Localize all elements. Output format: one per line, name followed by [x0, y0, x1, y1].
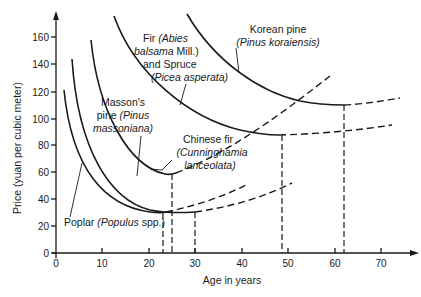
x-tick-label: 0	[53, 258, 59, 269]
svg-text:Fir (Abies: Fir (Abies	[143, 32, 189, 44]
svg-text:(Picea asperata): (Picea asperata)	[151, 71, 228, 83]
svg-text:(Pinus koraiensis): (Pinus koraiensis)	[236, 36, 319, 48]
y-axis-arrow-icon	[53, 11, 59, 20]
svg-text:Poplar (Populus spp.): Poplar (Populus spp.)	[64, 216, 165, 228]
optimal-age-markers	[163, 105, 344, 253]
x-tick-label: 20	[143, 258, 155, 269]
x-tick-label: 50	[282, 258, 294, 269]
x-axis-arrow-icon	[410, 250, 419, 256]
svg-text:massoniana): massoniana)	[93, 122, 153, 134]
label-korean-pine: Korean pine (Pinus koraiensis)	[236, 23, 320, 73]
svg-text:Chinese fir: Chinese fir	[183, 133, 234, 145]
y-tick-label: 80	[38, 140, 50, 151]
x-tick-label: 60	[329, 258, 341, 269]
y-tick-label: 40	[38, 194, 50, 205]
y-tick-label: 20	[38, 221, 50, 232]
y-tick-label: 0	[43, 248, 49, 259]
y-tick-label: 60	[38, 167, 50, 178]
svg-text:balsama Mill.): balsama Mill.)	[134, 45, 199, 57]
label-fir-spruce: Fir (Abies balsama Mill.) and Spruce (Pi…	[134, 32, 228, 105]
svg-text:pine (Pinus: pine (Pinus	[97, 109, 150, 121]
price-age-chart: 0 20 40 60 80 100 120 140 160 0 10 20 30…	[0, 0, 421, 297]
x-tick-label: 10	[96, 258, 108, 269]
svg-text:Korean pine: Korean pine	[250, 23, 307, 35]
svg-text:(Cunninghamia: (Cunninghamia	[176, 146, 247, 158]
y-tick-label: 160	[32, 32, 49, 43]
x-tick-label: 30	[189, 258, 201, 269]
x-axis-title: Age in years	[203, 274, 261, 286]
svg-text:lanceolata): lanceolata)	[184, 159, 235, 171]
svg-text:and Spruce: and Spruce	[143, 58, 197, 70]
label-chinese-fir: Chinese fir (Cunninghamia lanceolata)	[150, 133, 248, 171]
y-axis-title: Price (yuan per cubic meter)	[11, 82, 23, 214]
y-tick-label: 100	[32, 114, 49, 125]
x-ticks: 0 10 20 30 40 50 60 70	[53, 248, 387, 269]
label-poplar: Poplar (Populus spp.)	[64, 163, 165, 228]
y-tick-label: 120	[32, 87, 49, 98]
y-tick-label: 140	[32, 59, 49, 70]
x-tick-label: 40	[236, 258, 248, 269]
svg-text:Masson's: Masson's	[101, 96, 145, 108]
x-tick-label: 70	[375, 258, 387, 269]
y-ticks: 0 20 40 60 80 100 120 140 160	[32, 32, 56, 259]
